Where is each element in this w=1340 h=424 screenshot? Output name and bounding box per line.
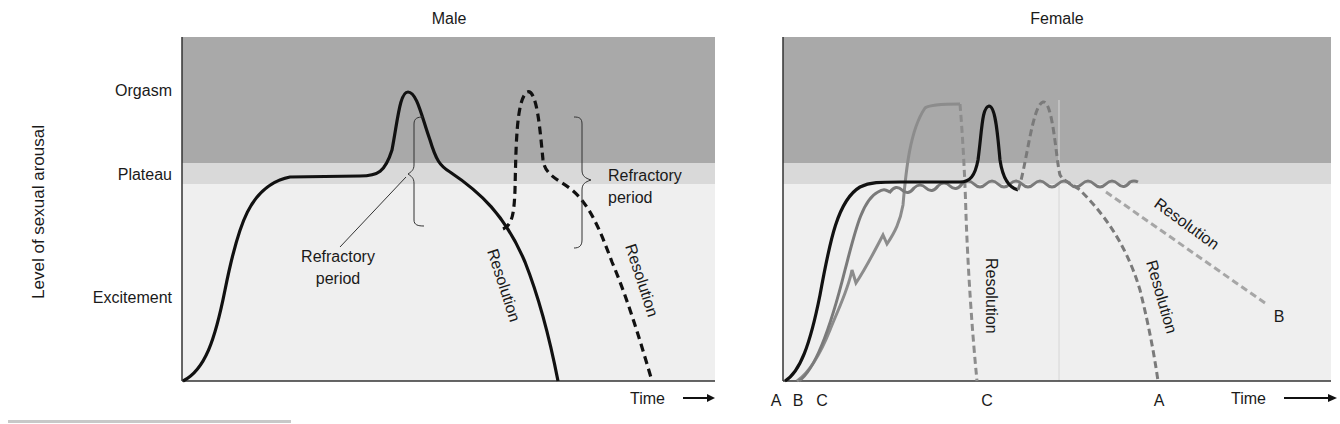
male-time-label: Time xyxy=(630,390,665,407)
time-arrow-icon xyxy=(683,394,715,402)
y-axis-label: Level of sexual arousal xyxy=(29,125,48,299)
female-title: Female xyxy=(1030,10,1083,27)
refractory-label-1b: period xyxy=(316,270,360,287)
end-label-a: A xyxy=(1154,392,1165,409)
resolution-label-c: Resolution xyxy=(983,258,1000,334)
start-label-a: A xyxy=(771,392,782,409)
orgasm-band xyxy=(783,37,1331,163)
phase-label-orgasm: Orgasm xyxy=(115,82,172,99)
refractory-label-2: Refractory xyxy=(608,167,682,184)
female-time-label: Time xyxy=(1231,390,1266,407)
bottom-rule xyxy=(8,420,291,423)
end-label-b: B xyxy=(1274,308,1285,325)
refractory-label-1: Refractory xyxy=(301,248,375,265)
start-label-b: B xyxy=(793,392,804,409)
orgasm-band xyxy=(182,37,715,163)
start-label-c: C xyxy=(816,392,828,409)
phase-label-plateau: Plateau xyxy=(118,166,172,183)
time-arrow-icon xyxy=(1284,394,1337,402)
lower-band xyxy=(783,184,1331,381)
female-panel: Female Resolution Resolution Resolution … xyxy=(771,10,1337,409)
end-label-c: C xyxy=(981,392,993,409)
male-panel: Male Refractory period Refractory period… xyxy=(182,10,715,407)
refractory-label-2b: period xyxy=(608,189,652,206)
male-title: Male xyxy=(432,10,467,27)
phase-label-excitement: Excitement xyxy=(93,289,173,306)
sexual-response-diagram: Level of sexual arousal Orgasm Plateau E… xyxy=(0,0,1340,424)
